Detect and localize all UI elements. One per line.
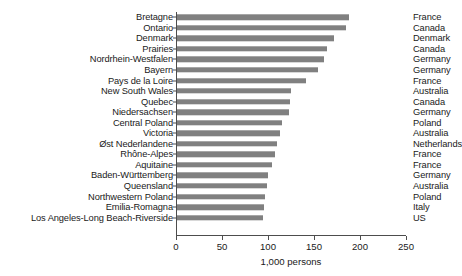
row-category-label: Denmark [136,33,173,43]
bar [176,57,324,62]
bar-track [176,149,406,160]
row-country-label: Poland [413,192,441,202]
row-country-label: Australia [413,181,448,191]
row-country-label: Poland [413,118,441,128]
bar-track [176,202,406,213]
chart-rows: BretagneFranceOntarioCanadaDenmarkDenmar… [0,12,425,223]
x-tick-label: 150 [306,241,322,252]
row-category-label: Øst Nederlandene [99,139,173,149]
row-country-label: France [413,160,441,170]
bar-track [176,212,406,223]
bar-track [176,128,406,139]
chart-row: BretagneFrance [0,12,425,23]
bar [176,15,349,20]
row-country-label: Germany [413,65,451,75]
bar [176,46,327,51]
x-tick-mark [314,236,315,240]
x-tick-mark [222,236,223,240]
bar-track [176,54,406,65]
row-category-label: Central Poland [113,118,173,128]
row-category-label: Niedersachsen [112,107,173,117]
chart-row: PrairiesCanada [0,44,425,55]
chart-row: QueenslandAustralia [0,181,425,192]
bar-track [176,75,406,86]
row-category-label: Prairies [142,44,173,54]
bar-track [176,44,406,55]
chart-row: Nordrhein-WestfalenGermany [0,54,425,65]
row-country-label: Italy [413,202,430,212]
row-country-label: Canada [413,23,445,33]
row-country-label: Germany [413,170,451,180]
chart-row: Rhône-AlpesFrance [0,149,425,160]
bar-track [176,139,406,150]
bar-track [176,23,406,34]
x-tick-mark [406,236,407,240]
chart-row: Emilia-RomagnaItaly [0,202,425,213]
row-category-label: Rhône-Alpes [120,149,173,159]
bar [176,173,268,178]
bar-track [176,96,406,107]
row-category-label: Nordrhein-Westfalen [90,54,173,64]
chart-row: NiedersachsenGermany [0,107,425,118]
bar [176,131,280,136]
row-country-label: Australia [413,86,448,96]
chart-row: Northwestern PolandPoland [0,191,425,202]
row-category-label: Bretagne [136,12,173,22]
x-tick-label: 0 [173,241,178,252]
row-category-label: Queensland [124,181,173,191]
row-country-label: Netherlands [413,139,462,149]
bar-track [176,86,406,97]
bar [176,183,267,188]
bar [176,99,290,104]
row-category-label: Bayern [144,65,173,75]
bar-track [176,160,406,171]
bar [176,67,318,72]
bar [176,215,263,220]
chart-row: OntarioCanada [0,23,425,34]
row-category-label: Pays de la Loire [108,76,173,86]
row-category-label: Aquitaine [135,160,173,170]
row-country-label: US [413,213,426,223]
chart-row: Central PolandPoland [0,117,425,128]
row-category-label: Emilia-Romagna [106,202,173,212]
bar [176,141,277,146]
x-tick-label: 100 [260,241,276,252]
bar-track [176,170,406,181]
row-country-label: France [413,149,441,159]
row-category-label: New South Wales [101,86,173,96]
bar [176,162,272,167]
chart-row: DenmarkDenmark [0,33,425,44]
row-country-label: Australia [413,128,448,138]
bar-track [176,181,406,192]
y-axis-line [176,12,177,235]
bar [176,120,282,125]
bar [176,109,289,114]
bar-track [176,107,406,118]
bar [176,78,306,83]
row-category-label: Northwestern Poland [88,192,173,202]
chart-row: Pays de la LoireFrance [0,75,425,86]
row-country-label: Canada [413,97,445,107]
row-country-label: Germany [413,54,451,64]
bar [176,88,291,93]
bar [176,36,334,41]
x-axis-line [176,235,406,236]
row-country-label: Canada [413,44,445,54]
row-category-label: Victoria [143,128,173,138]
bar [176,194,265,199]
chart-row: QuebecCanada [0,96,425,107]
row-category-label: Baden-Württemberg [91,170,173,180]
row-country-label: France [413,76,441,86]
bar-track [176,65,406,76]
row-country-label: Denmark [413,33,450,43]
chart-row: Los Angeles-Long Beach-RiversideUS [0,212,425,223]
row-country-label: France [413,12,441,22]
chart-row: BayernGermany [0,65,425,76]
x-tick-label: 200 [352,241,368,252]
x-tick-mark [360,236,361,240]
chart-row: New South WalesAustralia [0,86,425,97]
x-tick-label: 50 [217,241,228,252]
x-tick-mark [268,236,269,240]
row-category-label: Ontario [143,23,173,33]
